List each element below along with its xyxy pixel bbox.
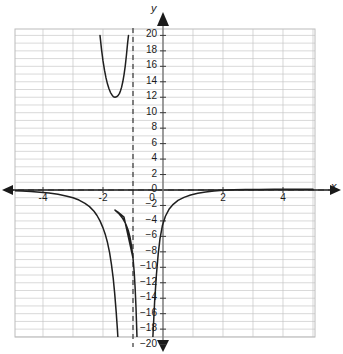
y-tick-label: −16 [129, 307, 157, 318]
y-tick-label: −20 [129, 338, 157, 349]
y-tick-label: 18 [129, 44, 157, 55]
minor-gridlines [15, 35, 315, 336]
y-tick-label: −14 [129, 291, 157, 302]
asymptote-lines [8, 28, 334, 347]
y-tick-label: 4 [129, 152, 157, 163]
x-tick-label: 0 [142, 192, 162, 203]
y-tick-label: −8 [129, 245, 157, 256]
x-axis-label: x [331, 180, 337, 192]
y-tick-label: 6 [129, 137, 157, 148]
x-tick-label: -4 [33, 192, 53, 203]
y-tick-label: −12 [129, 276, 157, 287]
y-tick-label: −6 [129, 229, 157, 240]
y-tick-label: 2 [129, 168, 157, 179]
y-tick-label: 10 [129, 106, 157, 117]
y-tick-label: −4 [129, 214, 157, 225]
y-tick-label: −18 [129, 322, 157, 333]
y-tick-label: 20 [129, 28, 157, 39]
x-tick-label: -2 [93, 192, 113, 203]
x-tick-label: 2 [213, 192, 233, 203]
y-tick-label: 8 [129, 121, 157, 132]
coordinate-plane [0, 0, 343, 354]
graph-container: y x 20181614121086420−2−4−6−8−10−12−14−1… [0, 0, 343, 354]
y-tick-label: 12 [129, 90, 157, 101]
y-tick-label: 14 [129, 75, 157, 86]
x-tick-label: 4 [273, 192, 293, 203]
y-axis-label: y [151, 2, 157, 14]
y-tick-label: −10 [129, 260, 157, 271]
y-tick-label: 16 [129, 59, 157, 70]
